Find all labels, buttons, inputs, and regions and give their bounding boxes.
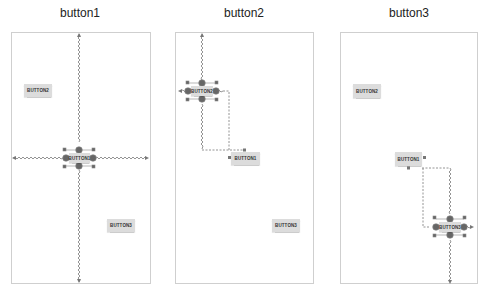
button2-panel-3[interactable]: BUTTON2	[353, 84, 381, 98]
spring-arrows-panel-2	[178, 33, 246, 159]
constraints-layer	[0, 0, 485, 294]
button2-panel-1[interactable]: BUTTON2	[24, 84, 52, 97]
spring-arrows-panel-3	[407, 156, 474, 284]
button2-panel-2-selected[interactable]: BUTTON2	[191, 86, 213, 96]
button3-panel-1[interactable]: BUTTON3	[107, 219, 135, 232]
button3-panel-3-selected[interactable]: BUTTON3	[439, 222, 461, 232]
button1-panel-3[interactable]: BUTTON1	[395, 152, 422, 166]
button3-panel-2[interactable]: BUTTON3	[272, 219, 300, 232]
button1-panel-2[interactable]: BUTTON1	[231, 152, 260, 165]
button1-panel-1-selected[interactable]: BUTTON1	[69, 153, 90, 163]
